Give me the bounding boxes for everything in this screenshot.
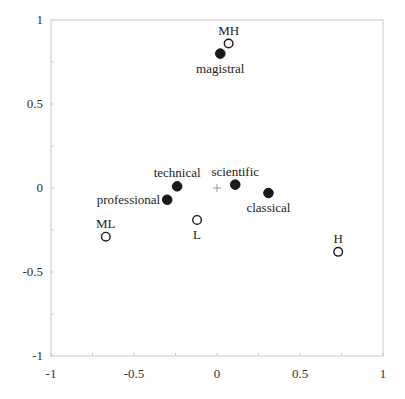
open-circle-icon: [101, 232, 110, 241]
x-tick-label: -0.5: [124, 366, 145, 381]
point-label: MH: [218, 23, 239, 38]
data-point-classical: classical: [246, 188, 290, 215]
data-points: magistraltechnicalscientificprofessional…: [96, 23, 343, 257]
data-point-technical: technical: [154, 165, 201, 191]
x-tick-label: -1: [46, 366, 57, 381]
y-tick-label: 0: [37, 180, 44, 195]
point-label: magistral: [196, 61, 245, 76]
filled-circle-icon: [264, 188, 274, 198]
point-label: technical: [154, 165, 201, 180]
scatter-chart: 10.50-0.5-1 -1-0.500.51 magistraltechnic…: [0, 0, 405, 399]
point-label: L: [193, 227, 201, 242]
filled-circle-icon: [216, 49, 226, 59]
y-axis-tick-labels: 10.50-0.5-1: [22, 12, 43, 363]
filled-circle-icon: [172, 182, 182, 192]
y-tick-label: 0.5: [27, 96, 43, 111]
x-tick-label: 0.5: [292, 366, 308, 381]
open-circle-icon: [193, 216, 202, 225]
point-label: professional: [97, 192, 161, 207]
filled-circle-icon: [230, 180, 240, 190]
open-circle-icon: [334, 248, 343, 257]
x-tick-label: 0: [214, 366, 221, 381]
origin-plus-marker: [213, 184, 221, 192]
y-tick-label: 1: [37, 12, 44, 27]
y-tick-label: -0.5: [22, 264, 43, 279]
data-point-ml: ML: [96, 216, 116, 241]
data-point-magistral: magistral: [196, 49, 245, 76]
x-axis-tick-labels: -1-0.500.51: [46, 366, 387, 381]
data-point-l: L: [193, 216, 202, 242]
point-label: classical: [246, 200, 290, 215]
x-tick-label: 1: [380, 366, 387, 381]
point-label: H: [333, 231, 342, 246]
data-point-scientific: scientific: [211, 164, 259, 190]
data-point-mh: MH: [218, 23, 239, 48]
point-label: ML: [96, 216, 116, 231]
filled-circle-icon: [162, 195, 172, 205]
point-label: scientific: [211, 164, 259, 179]
y-tick-label: -1: [32, 348, 43, 363]
data-point-h: H: [333, 231, 342, 256]
data-point-professional: professional: [97, 192, 172, 207]
open-circle-icon: [224, 39, 233, 48]
